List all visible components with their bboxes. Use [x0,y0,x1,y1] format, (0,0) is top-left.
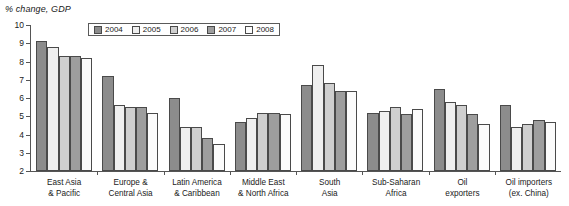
y-tick-label: 6 [19,93,24,103]
bar-2004[interactable] [102,76,113,171]
bar-2008[interactable] [412,109,423,171]
y-tick-label: 3 [19,148,24,158]
bar-2004[interactable] [36,41,47,171]
bars [500,26,556,171]
category-label: Europe & Central Asia [97,178,163,206]
bar-2006[interactable] [125,107,136,171]
x-axis-group-separator [495,171,496,175]
y-tick-label: 4 [19,130,24,140]
bar-2005[interactable] [180,127,191,171]
bars [301,26,357,171]
y-tick-2: 2 [30,171,35,172]
bar-groups [31,26,561,171]
bars [367,26,423,171]
bar-2004[interactable] [169,98,180,171]
bar-2007[interactable] [335,91,346,171]
bar-group [230,26,296,171]
x-axis-group-separator [97,171,98,175]
bar-2005[interactable] [312,65,323,171]
category-label: Latin America & Caribbean [164,178,230,206]
bar-2004[interactable] [235,122,246,171]
bar-2008[interactable] [147,113,158,171]
bar-2005[interactable] [246,118,257,171]
bar-2006[interactable] [522,124,533,171]
bar-2006[interactable] [59,56,70,171]
bar-2008[interactable] [81,58,92,171]
bar-2004[interactable] [301,85,312,171]
bar-group [429,26,495,171]
category-label: East Asia & Pacific [31,178,97,206]
bars [36,26,92,171]
bar-2004[interactable] [500,105,511,171]
bar-2007[interactable] [401,114,412,171]
bar-2006[interactable] [257,113,268,171]
y-tick-label: 7 [19,75,24,85]
chart-container: % change, GDP 2004 2005 2006 2007 2008 2… [0,0,569,206]
bar-2006[interactable] [390,107,401,171]
bar-2005[interactable] [47,47,58,171]
plot-area: 2345678910 [30,26,561,172]
y-tick-label: 10 [15,20,24,30]
category-label: Middle East & North Africa [230,178,296,206]
y-tick-mark [26,171,31,172]
bar-2005[interactable] [379,111,390,171]
bar-group [31,26,97,171]
bar-2006[interactable] [191,127,202,171]
y-tick-label: 9 [19,38,24,48]
category-label: Oil exporters [429,178,495,206]
x-axis-group-separator [296,171,297,175]
bar-2008[interactable] [478,124,489,171]
bar-2007[interactable] [467,114,478,171]
bar-2007[interactable] [268,113,279,171]
y-tick-label: 2 [19,166,24,176]
x-axis-group-separator [429,171,430,175]
bar-2007[interactable] [533,120,544,171]
bars [102,26,158,171]
bar-2006[interactable] [456,105,467,171]
y-tick-label: 8 [19,57,24,67]
bar-2008[interactable] [545,122,556,171]
bar-group [97,26,163,171]
category-label: Oil importers (ex. China) [496,178,562,206]
x-axis-group-separator [164,171,165,175]
bar-2004[interactable] [367,113,378,171]
bar-group [362,26,428,171]
bar-group [296,26,362,171]
bar-2007[interactable] [202,138,213,171]
bar-2008[interactable] [346,91,357,171]
x-axis-category-labels: East Asia & PacificEurope & Central Asia… [31,178,562,206]
bars [434,26,490,171]
bar-2008[interactable] [280,114,291,171]
bar-2005[interactable] [445,102,456,171]
category-label: Sub-Saharan Africa [363,178,429,206]
y-tick-label: 5 [19,111,24,121]
bar-2005[interactable] [114,105,125,171]
x-axis-group-separator [362,171,363,175]
bar-2007[interactable] [136,107,147,171]
category-label: South Asia [297,178,363,206]
bar-2006[interactable] [324,83,335,171]
bars [169,26,225,171]
bar-group [164,26,230,171]
bar-2007[interactable] [70,56,81,171]
bar-2004[interactable] [434,89,445,171]
bar-group [495,26,561,171]
y-axis-title: % change, GDP [5,4,71,14]
bar-2005[interactable] [511,127,522,171]
x-axis-group-separator [230,171,231,175]
bar-2008[interactable] [213,144,224,171]
bars [235,26,291,171]
